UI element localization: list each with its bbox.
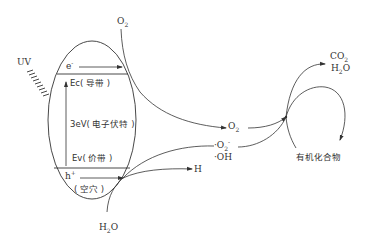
organic-compound-label: 有机化合物	[296, 153, 341, 162]
hole-description: ( 空穴 )	[74, 185, 104, 194]
superoxide-sup: -	[228, 138, 230, 145]
electron-charge: -	[71, 59, 73, 66]
uv-label: UV	[17, 58, 31, 67]
hydrogen-label: H	[194, 165, 202, 174]
co2-base: CO	[330, 51, 344, 61]
valence-band-label: Ev( 价带 )	[72, 154, 112, 163]
o2-middle-label: O2	[228, 122, 239, 131]
o2-top-sub: 2	[124, 21, 128, 28]
uv-light-rays	[27, 70, 49, 96]
h2o-bottom-o: O	[111, 222, 118, 232]
superoxide-label: ·O2-	[214, 141, 230, 150]
h2o-product-label: H2O	[331, 64, 350, 73]
superoxide-prefix: ·O	[214, 140, 224, 150]
band-gap-label: 3eV( 电子伏特 )	[70, 120, 135, 129]
h2o-oxidation-path	[107, 178, 123, 212]
electron-label: e-	[66, 62, 73, 71]
h2o-product-o: O	[343, 63, 350, 73]
o2-top-label: O2	[117, 17, 128, 26]
o2-middle-sub: 2	[235, 126, 239, 133]
organic-loop-path	[286, 87, 345, 140]
o2-reduction-path	[121, 29, 226, 128]
h2o-product-h: H	[331, 63, 339, 73]
co2-sub: 2	[344, 56, 348, 63]
junction-point	[285, 116, 287, 118]
hydrogen-path	[123, 169, 192, 178]
hydroxyl-label: ·OH	[214, 153, 232, 162]
hole-label: h+	[65, 172, 76, 181]
superoxide-sub: 2	[224, 145, 228, 152]
conduction-band-label: Ec( 导带 )	[70, 79, 110, 88]
h2o-bottom-h: H	[99, 222, 107, 232]
h2o-bottom-label: H2O	[99, 223, 118, 232]
co2-label: CO2	[330, 52, 348, 61]
organic-feed-path	[286, 117, 296, 148]
hole-charge: +	[71, 169, 76, 176]
photocatalysis-diagram	[0, 0, 369, 245]
